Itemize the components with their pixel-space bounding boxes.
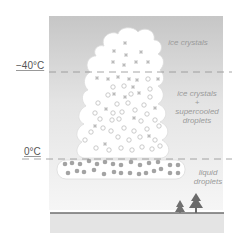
minus40-temperature-label: −40°C (16, 60, 44, 71)
mixed-zone-line-2: + (166, 98, 228, 107)
mixed-zone-line-4: droplets (166, 116, 228, 125)
mixed-zone-line-1: ice crystals (166, 89, 228, 98)
cloud-phase-diagram: −40°C 0°C ice crystals ice crystals + su… (0, 0, 244, 242)
liquid-zone-line-1: liquid (188, 168, 228, 177)
zero-temperature-label: 0°C (24, 146, 41, 157)
ground-fill (50, 213, 224, 233)
liquid-zone-line-2: droplets (188, 177, 228, 186)
ice-crystals-zone-label: ice crystals (158, 38, 218, 47)
mixed-zone-line-3: supercooled (166, 107, 228, 116)
liquid-zone-label: liquid droplets (188, 168, 228, 186)
mixed-zone-label: ice crystals + supercooled droplets (166, 89, 228, 125)
